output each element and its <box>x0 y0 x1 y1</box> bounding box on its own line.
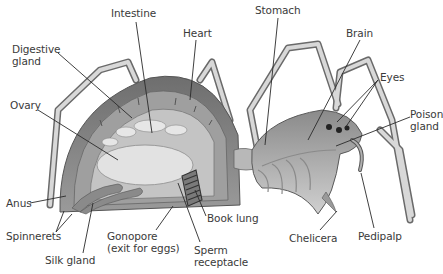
label-gonopore: Gonopore (exit for eggs) <box>107 230 180 254</box>
leader-line-pedipalp <box>361 173 374 228</box>
label-chelicera: Chelicera <box>289 232 337 244</box>
leader-line-eyes <box>345 80 378 128</box>
label-intestine: Intestine <box>111 7 156 19</box>
label-book-lung: Book lung <box>207 212 258 224</box>
leader-line-spinnerets <box>56 211 64 232</box>
label-brain: Brain <box>346 27 373 39</box>
label-anus: Anus <box>6 197 32 209</box>
label-stomach: Stomach <box>255 4 301 16</box>
spider-anatomy-diagram: Intestine Heart Digestive gland Ovary St… <box>0 0 443 274</box>
label-spinnerets: Spinnerets <box>6 230 61 242</box>
abdomen <box>60 76 240 214</box>
label-ovary: Ovary <box>10 99 41 111</box>
label-heart: Heart <box>183 27 212 39</box>
leader-line-chelicera <box>320 211 337 230</box>
label-silk-gland: Silk gland <box>45 254 95 266</box>
leader-line-gonopore <box>156 206 173 230</box>
label-pedipalp: Pedipalp <box>358 230 402 242</box>
leader-line-eyes <box>337 80 378 122</box>
label-sperm-receptacle: Sperm receptacle <box>194 244 248 268</box>
cephalothorax <box>252 110 362 214</box>
label-poison-gland: Poison gland <box>410 108 443 132</box>
label-eyes: Eyes <box>380 71 404 83</box>
label-digestive-gland: Digestive gland <box>12 43 60 67</box>
